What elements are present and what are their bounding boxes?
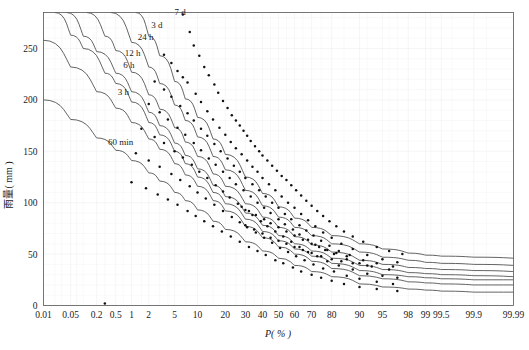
scatter-point [239,241,242,244]
scatter-point [312,234,315,237]
scatter-point [298,233,301,236]
scatter-point [179,179,182,182]
scatter-point [307,251,310,254]
x-tick-label: 99.5 [433,310,450,320]
scatter-point [213,143,216,146]
scatter-point [298,224,301,227]
scatter-point [244,177,247,180]
scatter-point [316,255,319,258]
scatter-point [295,255,298,258]
y-tick-label: 200 [23,95,38,105]
scatter-point [255,214,258,217]
curve-label-12-h: 12 h [125,48,141,58]
scatter-point [176,204,179,207]
scatter-point [333,253,336,256]
scatter-point [222,100,225,103]
scatter-point [330,280,333,283]
scatter-point [246,135,249,138]
scatter-point [358,278,361,281]
scatter-point [328,220,331,223]
curve-24-h [87,13,514,272]
scatter-point [346,258,349,261]
scatter-point [231,216,234,219]
scatter-point [214,163,217,166]
x-tick-label: 40 [258,310,268,320]
scatter-point [290,218,293,221]
scatter-point [218,126,221,129]
scatter-point [222,210,225,213]
scatter-point [260,220,263,223]
scatter-point [251,214,254,217]
x-tick-label: 5 [172,310,177,320]
scatter-point [263,236,266,239]
curve-label-3-d: 3 d [151,20,163,30]
scatter-point [219,150,222,153]
scatter-point [261,232,264,235]
scatter-point [310,252,313,255]
scatter-point [244,224,247,227]
scatter-point [381,258,384,261]
scatter-point [198,54,201,57]
scatter-point [156,193,159,196]
scatter-point [292,266,295,269]
scatter-point [290,184,293,187]
scatter-point [248,210,251,213]
scatter-point [198,171,201,174]
scatter-point [176,70,179,73]
scatter-point [208,157,211,160]
scatter-point [280,195,283,198]
scatter-point [269,212,272,215]
scatter-point [147,103,150,106]
scatter-point [277,226,280,229]
scatter-point [145,187,148,190]
y-axis-title: 雨量( mm ) [3,161,15,208]
scatter-point [314,244,317,247]
scatter-point [213,204,216,207]
scatter-point [352,262,355,265]
scatter-point [292,228,295,231]
x-tick-label: 80 [327,310,337,320]
scatter-point [153,136,156,139]
scatter-point [226,157,229,160]
curve-label-7-d: 7 d [175,7,187,17]
scatter-point [285,230,288,233]
scatter-point [284,223,287,226]
scatter-point [182,156,185,159]
scatter-point [285,243,288,246]
curve-label-60-min: 60 min [108,137,134,147]
scatter-point [228,196,231,199]
scatter-point [300,194,303,197]
scatter-point [277,207,280,210]
scatter-point [188,185,191,188]
scatter-point [298,246,301,249]
scatter-point [256,171,259,174]
curve-label-6-h: 6 h [123,60,135,70]
scatter-point [186,81,189,84]
scatter-point [188,31,191,34]
scatter-point [266,225,269,228]
scatter-point [194,215,197,218]
scatter-point [392,265,395,268]
scatter-point [173,150,176,153]
scatter-point [163,88,166,91]
scatter-point [274,189,277,192]
scatter-point [205,197,208,200]
scatter-point [326,260,329,263]
scatter-point [158,111,161,114]
scatter-point [235,119,238,122]
scatter-point [328,245,331,248]
scatter-point [217,91,220,94]
x-tick-label: 98 [404,310,414,320]
scatter-point [362,241,365,244]
x-tick-label: 70 [307,310,317,320]
scatter-point [251,183,254,186]
scatter-point [340,243,343,246]
scatter-point [326,249,329,252]
scatter-point [396,276,399,279]
x-tick-label: 1 [129,310,134,320]
scatter-point [240,153,243,156]
x-tick-label: 0.01 [35,310,52,320]
scatter-point [224,134,227,137]
scatter-point [228,177,231,180]
curve-label-3-h: 3 h [118,87,130,97]
